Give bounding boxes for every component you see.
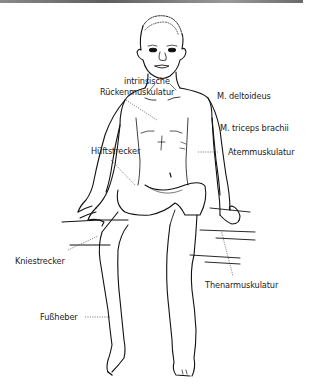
label-respiratory: Atemmuskulatur [228,147,294,157]
child-figure-illustration [0,0,310,385]
leader-intrinsic-back [126,100,157,120]
leader-thenar [221,230,233,276]
label-knee-extensor: Kniestrecker [15,256,65,266]
label-deltoid: M. deltoideus [217,91,271,101]
label-intrinsic-back-line1: intrinsische [124,76,170,86]
label-thenar: Thenarmuskulatur [205,280,278,290]
leader-hip-extensor [111,160,135,185]
label-hip-extensor: Hüftstrecker [91,146,140,156]
label-foot-lifter: Fußheber [40,312,78,322]
label-intrinsic-back-line2: Rückenmuskulatur [100,87,174,97]
leader-knee-extensor [68,236,98,250]
label-triceps: M. triceps brachii [220,123,289,133]
